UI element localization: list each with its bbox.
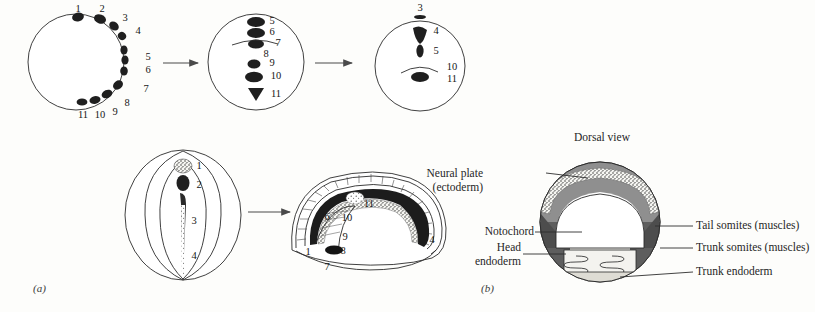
stage5-tailbud-embryo: 1 6 7 8 9 10 11 4 [292,172,446,272]
label-head-endoderm-line2: endoderm [475,255,521,267]
svg-text:9: 9 [269,57,274,68]
svg-text:3: 3 [122,12,127,23]
svg-text:1: 1 [75,3,80,14]
svg-text:3: 3 [417,2,422,13]
stage4-neurula: 1 2 3 4 [125,150,241,280]
label-neural-plate-line1: Neural plate [426,167,483,180]
fate-map-figure: 1 2 3 4 5 6 7 8 9 10 11 5 6 [0,0,815,312]
svg-text:1: 1 [196,160,201,171]
svg-text:2: 2 [99,3,104,14]
svg-text:7: 7 [275,37,280,48]
svg-text:6: 6 [145,64,150,75]
panel-b-tag: (b) [481,282,494,295]
svg-text:3: 3 [191,215,196,226]
svg-text:10: 10 [95,109,106,120]
svg-text:6: 6 [324,211,329,222]
svg-text:9: 9 [112,106,117,117]
label-trunk-endoderm: Trunk endoderm [696,265,773,277]
tail-somite-patch [346,192,364,204]
svg-text:10: 10 [342,212,353,223]
svg-text:7: 7 [143,83,148,94]
svg-text:10: 10 [271,70,282,81]
svg-text:5: 5 [145,51,150,62]
panel-a-tag: (a) [33,282,46,295]
stage3-late-gastrula: 3 4 5 10 11 [375,2,465,111]
svg-text:2: 2 [196,179,201,190]
label-head-endoderm-line1: Head [497,241,522,253]
stage2-gastrula: 5 6 7 8 9 10 11 [208,14,304,110]
svg-text:10: 10 [447,61,458,72]
svg-text:11: 11 [78,109,88,120]
panel-b-title: Dorsal view [574,131,631,143]
label-tail-somites: Tail somites (muscles) [696,219,799,232]
svg-text:6: 6 [269,26,274,37]
svg-text:11: 11 [271,88,281,99]
svg-text:8: 8 [263,48,268,59]
label-notochord: Notochord [485,225,534,237]
svg-text:5: 5 [433,45,438,56]
svg-text:11: 11 [447,73,457,84]
svg-text:4: 4 [429,234,435,245]
svg-text:4: 4 [433,25,439,36]
svg-text:5: 5 [269,15,274,26]
label-trunk-somites: Trunk somites (muscles) [696,241,809,254]
panel-b-diagram [535,158,665,290]
label-neural-plate-line2: (ectoderm) [433,181,484,194]
svg-text:7: 7 [324,261,329,272]
svg-text:8: 8 [340,245,345,256]
svg-text:8: 8 [124,97,129,108]
svg-text:9: 9 [342,231,347,242]
svg-text:1: 1 [305,246,310,257]
svg-text:4: 4 [135,25,141,36]
svg-text:11: 11 [364,198,374,209]
stage1-blastula: 1 2 3 4 5 6 7 8 9 10 11 [28,3,151,120]
svg-text:4: 4 [191,250,197,261]
figure-canvas: 1 2 3 4 5 6 7 8 9 10 11 5 6 [0,0,815,312]
